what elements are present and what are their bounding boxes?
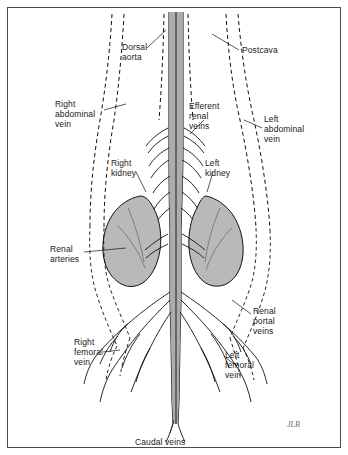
label-postcava: Postcava xyxy=(242,45,278,55)
label-right-kidney: Right kidney xyxy=(111,158,136,178)
diagram-artwork: .vs { fill: none; stroke: #111111; strok… xyxy=(0,0,348,455)
venous-circulation-diagram: .vs { fill: none; stroke: #111111; strok… xyxy=(0,0,348,455)
artist-signature: JLB xyxy=(287,420,300,429)
label-efferent-renal-veins: Efferent renal veins xyxy=(189,101,219,131)
right-kidney-shape xyxy=(103,196,161,287)
label-caudal-veins: Caudal veins xyxy=(135,437,185,447)
label-renal-arteries: Renal arteries xyxy=(50,244,79,264)
label-left-femoral-vein: Left femoral vein xyxy=(225,350,254,380)
label-right-abdominal-vein: Right abdominal vein xyxy=(55,99,95,129)
label-left-kidney: Left kidney xyxy=(205,158,230,178)
label-dorsal-aorta: Dorsal aorta xyxy=(122,42,147,62)
label-left-abdominal-vein: Left abdominal vein xyxy=(264,114,304,144)
label-right-femoral-vein: Right femoral vein xyxy=(74,337,103,367)
postcava-vessel xyxy=(169,12,183,424)
left-kidney-shape xyxy=(189,196,243,286)
label-renal-portal-veins: Renal portal veins xyxy=(253,306,276,336)
